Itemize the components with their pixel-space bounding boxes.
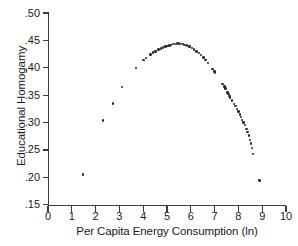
data-point (258, 179, 260, 181)
data-point (240, 116, 242, 118)
data-point (142, 59, 144, 61)
scatter-plot-figure: Educational Homogamy Per Capita Energy C… (0, 0, 298, 246)
data-point (214, 72, 216, 74)
data-point (251, 147, 253, 149)
data-point (135, 67, 137, 69)
data-point (102, 119, 104, 121)
data-point (224, 87, 226, 89)
data-point (121, 86, 123, 88)
data-point (244, 124, 246, 126)
data-point (231, 99, 233, 101)
data-point (82, 173, 84, 175)
data-points-layer (0, 0, 298, 246)
data-point (246, 131, 248, 133)
data-point (229, 96, 231, 98)
data-point (149, 53, 151, 55)
data-point (207, 62, 209, 64)
data-point (234, 105, 236, 107)
data-point (248, 134, 250, 136)
data-point (249, 139, 251, 141)
data-point (112, 102, 114, 104)
data-point (245, 128, 247, 130)
data-point (145, 57, 147, 59)
data-point (204, 59, 206, 61)
data-point (252, 153, 254, 155)
data-point (250, 142, 252, 144)
